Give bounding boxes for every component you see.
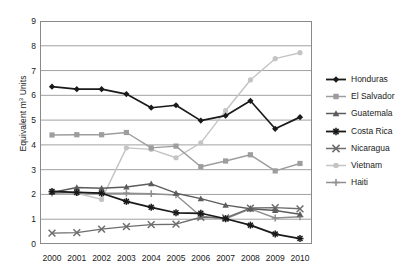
legend-item-el-salvador[interactable]: El Salvador: [325, 88, 409, 105]
legend-swatch-square-icon: [325, 91, 347, 102]
legend-swatch-cross-x-icon: [325, 143, 347, 154]
x-axis-tick-label: 2003: [117, 254, 136, 263]
data-point-square: [333, 94, 338, 99]
x-axis-tick-label: 2000: [43, 254, 62, 263]
legend-label: El Salvador: [351, 92, 394, 101]
legend-item-nicaragua[interactable]: Nicaragua: [325, 140, 409, 157]
x-axis-tick-label: 2001: [67, 254, 86, 263]
data-point-plus: [332, 179, 339, 186]
legend-item-costa-rica[interactable]: Costa Rica: [325, 123, 409, 140]
legend-swatch-plus-icon: [325, 177, 347, 188]
legend-item-vietnam[interactable]: Vietnam: [325, 157, 409, 174]
chart-legend: HondurasEl SalvadorGuatemalaCosta RicaNi…: [325, 71, 409, 191]
legend-label: Haiti: [351, 178, 368, 187]
x-axis-tick-label: 2010: [291, 254, 310, 263]
data-point-star: [332, 127, 339, 134]
legend-label: Nicaragua: [351, 144, 390, 153]
legend-label: Honduras: [351, 75, 388, 84]
line-chart: Equivalent m3 Units 0123456789 200020012…: [0, 0, 409, 280]
data-point-diamond: [333, 76, 340, 83]
x-axis-tick-label: 2005: [167, 254, 186, 263]
legend-item-guatemala[interactable]: Guatemala: [325, 105, 409, 122]
legend-label: Guatemala: [351, 109, 393, 118]
legend-item-honduras[interactable]: Honduras: [325, 71, 409, 88]
legend-swatch-star-icon: [325, 126, 347, 137]
x-axis-tick-label: 2008: [241, 254, 260, 263]
x-axis-tick-label: 2006: [191, 254, 210, 263]
x-axis-tick-label: 2007: [216, 254, 235, 263]
legend-swatch-triangle-icon: [325, 108, 347, 119]
legend-label: Costa Rica: [351, 127, 393, 136]
x-axis-tick-label: 2002: [92, 254, 111, 263]
data-point-circle: [333, 163, 338, 168]
x-axis-tick-label: 2009: [266, 254, 285, 263]
legend-swatch-diamond-icon: [325, 74, 347, 85]
legend-swatch-circle-icon: [325, 160, 347, 171]
legend-item-haiti[interactable]: Haiti: [325, 174, 409, 191]
x-axis-tick-label: 2004: [142, 254, 161, 263]
legend-label: Vietnam: [351, 161, 382, 170]
